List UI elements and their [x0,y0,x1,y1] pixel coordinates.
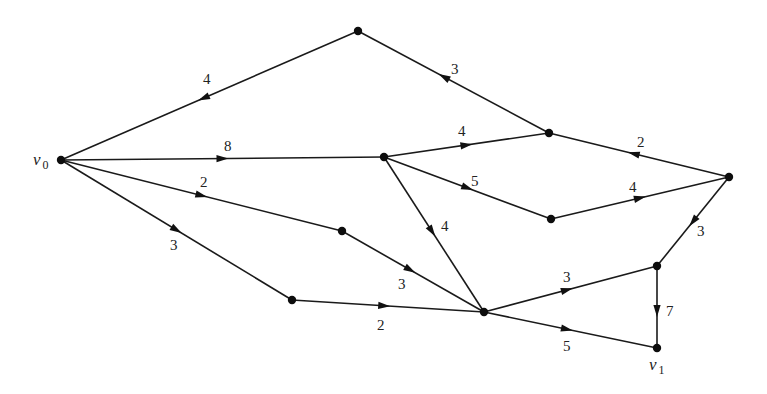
node-D [725,173,733,181]
node-H [480,308,488,316]
edge-weight-label: 7 [666,303,674,319]
edge-weight-label: 2 [377,317,385,333]
vertex-label-main: v [649,355,657,374]
labels-layer: 4384254423323357v0v1 [33,61,705,377]
node-E [547,215,555,223]
edge-weight-label: 3 [170,237,178,253]
node-I [653,262,661,270]
vertex-label-subscript: 1 [659,363,665,377]
arrow-head-icon [378,302,390,310]
node-v1 [653,344,661,352]
vertex-label-subscript: 0 [43,158,49,172]
arrow-head-icon [560,325,573,334]
arrow-head-icon [437,71,451,83]
arrow-head-icon [170,224,184,236]
arrow-head-icon [403,264,417,276]
edge-weight-label: 3 [398,276,406,292]
edge-weight-label: 2 [637,134,645,150]
node-A [354,27,362,35]
arrow-head-icon [195,191,208,201]
arrow-head-icon [653,305,660,317]
node-v0 [57,156,65,164]
node-B [380,153,388,161]
node-C [545,129,553,137]
vertex-label-v0: v0 [33,150,49,172]
edge-weight-label: 3 [697,223,705,239]
node-F [338,227,346,235]
vertex-label-v1: v1 [649,355,665,377]
edge-weight-label: 4 [458,123,466,139]
edge-weight-label: 5 [563,338,571,354]
edge-weight-label: 3 [451,61,459,77]
edge-weight-label: 4 [441,218,449,234]
arrow-head-icon [426,224,439,238]
node-G [288,296,296,304]
edge-weight-label: 4 [203,71,211,87]
edge-weight-label: 2 [200,174,208,190]
arrow-head-icon [560,285,573,295]
arrow-head-icon [197,92,211,103]
edge-weight-label: 5 [471,173,479,189]
arrow-head-icon [216,155,228,162]
edge-weight-label: 4 [629,179,637,195]
vertex-label-main: v [33,150,41,169]
edge-C-A [358,31,549,133]
arrow-head-icon [627,149,640,159]
graph-diagram: 4384254423323357v0v1 [0,0,767,394]
edge-weight-label: 3 [563,269,571,285]
edge-weight-label: 8 [224,138,232,154]
edge-A-v0 [61,31,358,160]
